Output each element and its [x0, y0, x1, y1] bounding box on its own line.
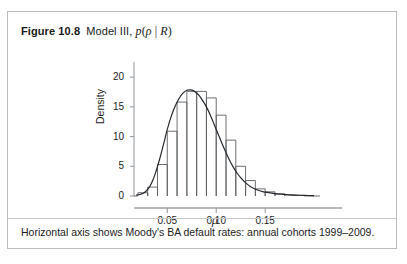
x-tick-label: 0.10: [199, 215, 233, 226]
figure-caption: Horizontal axis shows Moody's BA default…: [21, 226, 374, 238]
x-tick-label: 0.15: [248, 215, 282, 226]
density-curve: [136, 90, 314, 196]
y-tick-label: 10: [102, 131, 124, 142]
chart-plot-area: Density ρ 05101520 0.050.100.15: [8, 36, 398, 216]
caption-divider: [8, 218, 396, 219]
y-tick-label: 0: [102, 190, 124, 201]
y-tick-label: 20: [102, 71, 124, 82]
histogram-bars: [134, 91, 320, 196]
histogram-density-chart: [8, 36, 398, 216]
y-tick-label: 15: [102, 101, 124, 112]
y-tick-label: 5: [102, 160, 124, 171]
x-tick-label: 0.05: [150, 215, 184, 226]
figure-container: Figure 10.8Model III, p(ρ|R) Density ρ 0…: [7, 11, 397, 249]
